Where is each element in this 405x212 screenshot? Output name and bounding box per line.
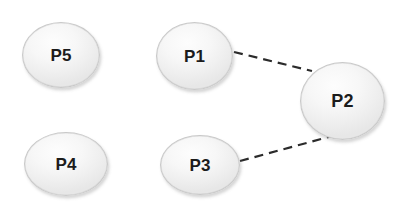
diagram-canvas: P5 P1 P2 P4 P3 — [0, 0, 405, 212]
node-p4-label: P4 — [55, 155, 76, 172]
node-p5[interactable]: P5 — [22, 22, 100, 88]
edge-p1-p2[interactable] — [234, 52, 312, 71]
node-p3-label: P3 — [189, 156, 210, 173]
node-p1-label: P1 — [184, 47, 205, 64]
node-p4[interactable]: P4 — [24, 132, 108, 196]
node-p2-label: P2 — [331, 92, 353, 110]
node-p5-label: P5 — [50, 46, 71, 63]
node-p2[interactable]: P2 — [300, 62, 385, 140]
node-p1[interactable]: P1 — [156, 22, 233, 90]
node-p3[interactable]: P3 — [160, 135, 240, 195]
